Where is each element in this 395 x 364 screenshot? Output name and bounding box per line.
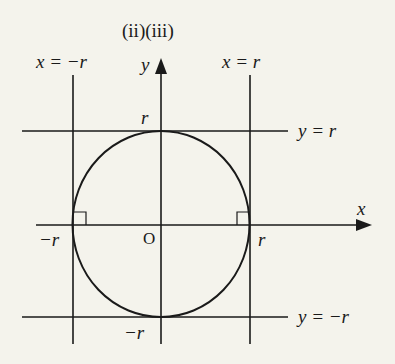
right-angle-mark-left	[73, 212, 86, 225]
label-neg-r-left: −r	[39, 230, 59, 249]
label-y-eq-r: y = r	[298, 121, 336, 140]
label-r-top: r	[141, 108, 148, 127]
x-axis-arrow-icon	[356, 219, 372, 231]
label-r-right: r	[258, 230, 265, 249]
label-x-eq-neg-r: x = −r	[36, 52, 87, 71]
label-y-axis: y	[141, 55, 149, 74]
label-y-eq-neg-r: y = −r	[298, 307, 349, 326]
y-axis-arrow-icon	[155, 58, 167, 74]
label-x-axis: x	[357, 199, 365, 218]
label-neg-r-bottom: −r	[124, 323, 144, 342]
label-x-eq-r: x = r	[222, 52, 260, 71]
label-origin: O	[143, 230, 155, 247]
